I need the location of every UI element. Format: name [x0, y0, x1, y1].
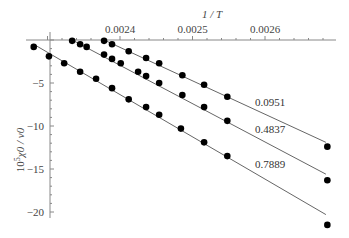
x-axis-title: 1 / T: [202, 8, 223, 20]
data-point: [125, 48, 132, 55]
data-point: [156, 60, 163, 67]
data-point: [30, 44, 37, 51]
series-labels: 0.09510.48370.7889: [255, 96, 286, 170]
x-tick-label: 0.0026: [250, 23, 281, 35]
data-point: [143, 104, 150, 111]
data-point: [201, 139, 208, 146]
data-point: [224, 118, 231, 125]
data-point: [156, 112, 163, 119]
data-point: [179, 72, 186, 79]
x-tick-label: 0.0024: [105, 23, 136, 35]
data-point: [201, 81, 208, 88]
data-point: [93, 75, 100, 82]
series-label: 0.7889: [255, 158, 286, 170]
data-point: [125, 96, 132, 103]
data-point: [143, 73, 150, 80]
data-point: [61, 60, 68, 67]
data-point: [224, 93, 231, 100]
data-point: [324, 143, 331, 150]
y-axis-title: 105χ0 / v0: [13, 127, 26, 172]
data-point: [101, 38, 108, 45]
y-tick-label: −15: [27, 163, 45, 175]
data-point: [324, 177, 331, 184]
data-point: [224, 153, 231, 160]
series-label: 0.4837: [255, 123, 286, 135]
data-point: [117, 60, 124, 67]
chart: 0.00240.00250.0026−5−10−15−20 0.09510.48…: [0, 0, 349, 238]
y-axis-title-rest: χ0 / v0: [14, 127, 26, 158]
data-point: [77, 69, 84, 76]
data-point: [178, 125, 185, 132]
axes: 0.00240.00250.0026−5−10−15−20: [26, 23, 336, 218]
fit-line: [104, 40, 326, 142]
x-tick-label: 0.0025: [177, 23, 208, 35]
data-point: [101, 51, 108, 58]
data-point: [77, 41, 84, 48]
y-tick-label: −10: [27, 120, 45, 132]
data-point: [201, 104, 208, 111]
y-tick-label: −20: [27, 206, 45, 218]
data-point: [109, 85, 116, 92]
data-point: [69, 38, 76, 45]
data-point: [135, 69, 142, 76]
y-tick-label: −5: [32, 77, 44, 89]
data-points: [30, 38, 330, 229]
data-point: [324, 222, 331, 229]
data-point: [109, 56, 116, 63]
data-point: [83, 44, 90, 51]
data-point: [46, 53, 53, 60]
y-axis-title-base: 10: [14, 161, 26, 173]
data-point: [156, 80, 163, 87]
data-point: [109, 41, 116, 48]
data-point: [143, 55, 150, 62]
series-label: 0.0951: [255, 96, 285, 108]
data-point: [179, 92, 186, 99]
